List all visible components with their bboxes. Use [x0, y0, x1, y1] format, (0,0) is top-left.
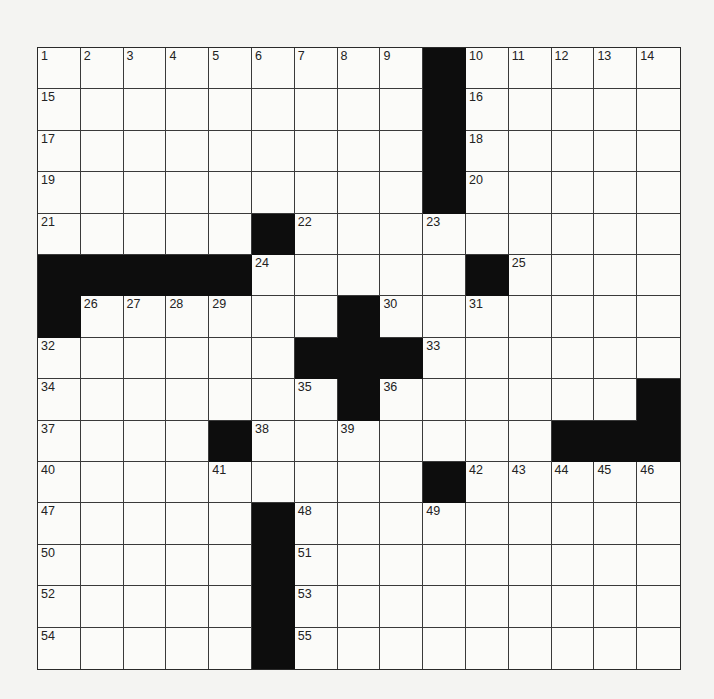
- grid-cell[interactable]: [166, 131, 209, 172]
- grid-cell[interactable]: [637, 586, 680, 627]
- grid-cell[interactable]: 35: [295, 379, 338, 420]
- grid-cell[interactable]: [466, 421, 509, 462]
- grid-cell[interactable]: [338, 628, 381, 669]
- grid-cell[interactable]: [81, 545, 124, 586]
- grid-cell[interactable]: [338, 545, 381, 586]
- grid-cell[interactable]: 21: [38, 214, 81, 255]
- grid-cell[interactable]: 13: [594, 48, 637, 89]
- grid-cell[interactable]: 17: [38, 131, 81, 172]
- grid-cell[interactable]: [380, 255, 423, 296]
- grid-cell[interactable]: [338, 89, 381, 130]
- grid-cell[interactable]: [637, 503, 680, 544]
- grid-cell[interactable]: [166, 214, 209, 255]
- grid-cell[interactable]: 34: [38, 379, 81, 420]
- grid-cell[interactable]: [209, 214, 252, 255]
- grid-cell[interactable]: [81, 172, 124, 213]
- grid-cell[interactable]: [81, 379, 124, 420]
- grid-cell[interactable]: [594, 172, 637, 213]
- grid-cell[interactable]: [509, 131, 552, 172]
- grid-cell[interactable]: 50: [38, 545, 81, 586]
- grid-cell[interactable]: [637, 296, 680, 337]
- grid-cell[interactable]: [81, 89, 124, 130]
- grid-cell[interactable]: [166, 586, 209, 627]
- grid-cell[interactable]: [594, 503, 637, 544]
- grid-cell[interactable]: [380, 214, 423, 255]
- grid-cell[interactable]: [509, 338, 552, 379]
- grid-cell[interactable]: [466, 503, 509, 544]
- grid-cell[interactable]: [466, 545, 509, 586]
- grid-cell[interactable]: [552, 586, 595, 627]
- grid-cell[interactable]: [509, 586, 552, 627]
- grid-cell[interactable]: 49: [423, 503, 466, 544]
- grid-cell[interactable]: 28: [166, 296, 209, 337]
- grid-cell[interactable]: [252, 172, 295, 213]
- grid-cell[interactable]: [124, 628, 167, 669]
- grid-cell[interactable]: [637, 255, 680, 296]
- grid-cell[interactable]: [423, 255, 466, 296]
- grid-cell[interactable]: [124, 421, 167, 462]
- grid-cell[interactable]: [295, 296, 338, 337]
- grid-cell[interactable]: 38: [252, 421, 295, 462]
- grid-cell[interactable]: [124, 545, 167, 586]
- grid-cell[interactable]: 55: [295, 628, 338, 669]
- grid-cell[interactable]: [637, 628, 680, 669]
- grid-cell[interactable]: [252, 462, 295, 503]
- grid-cell[interactable]: [552, 255, 595, 296]
- grid-cell[interactable]: [552, 296, 595, 337]
- grid-cell[interactable]: [637, 214, 680, 255]
- grid-cell[interactable]: [166, 628, 209, 669]
- grid-cell[interactable]: [166, 172, 209, 213]
- grid-cell[interactable]: [423, 296, 466, 337]
- grid-cell[interactable]: 27: [124, 296, 167, 337]
- grid-cell[interactable]: 15: [38, 89, 81, 130]
- grid-cell[interactable]: [466, 628, 509, 669]
- grid-cell[interactable]: 53: [295, 586, 338, 627]
- grid-cell[interactable]: [380, 89, 423, 130]
- grid-cell[interactable]: [380, 131, 423, 172]
- grid-cell[interactable]: [124, 172, 167, 213]
- grid-cell[interactable]: [637, 338, 680, 379]
- grid-cell[interactable]: [124, 462, 167, 503]
- grid-cell[interactable]: [338, 172, 381, 213]
- grid-cell[interactable]: [295, 89, 338, 130]
- grid-cell[interactable]: [594, 628, 637, 669]
- grid-cell[interactable]: [380, 586, 423, 627]
- grid-cell[interactable]: [466, 586, 509, 627]
- grid-cell[interactable]: [509, 296, 552, 337]
- grid-cell[interactable]: 30: [380, 296, 423, 337]
- grid-cell[interactable]: 31: [466, 296, 509, 337]
- grid-cell[interactable]: [166, 545, 209, 586]
- grid-cell[interactable]: [209, 628, 252, 669]
- grid-cell[interactable]: 46: [637, 462, 680, 503]
- grid-cell[interactable]: 5: [209, 48, 252, 89]
- grid-cell[interactable]: [166, 462, 209, 503]
- grid-cell[interactable]: 25: [509, 255, 552, 296]
- grid-cell[interactable]: [209, 172, 252, 213]
- grid-cell[interactable]: [594, 379, 637, 420]
- grid-cell[interactable]: [295, 255, 338, 296]
- grid-cell[interactable]: 41: [209, 462, 252, 503]
- grid-cell[interactable]: [209, 89, 252, 130]
- grid-cell[interactable]: [509, 214, 552, 255]
- grid-cell[interactable]: 29: [209, 296, 252, 337]
- grid-cell[interactable]: [252, 131, 295, 172]
- grid-cell[interactable]: [423, 379, 466, 420]
- grid-cell[interactable]: [252, 89, 295, 130]
- grid-cell[interactable]: [509, 379, 552, 420]
- grid-cell[interactable]: [380, 628, 423, 669]
- grid-cell[interactable]: 16: [466, 89, 509, 130]
- grid-cell[interactable]: 18: [466, 131, 509, 172]
- grid-cell[interactable]: [594, 131, 637, 172]
- grid-cell[interactable]: [166, 421, 209, 462]
- grid-cell[interactable]: [338, 503, 381, 544]
- grid-cell[interactable]: [295, 421, 338, 462]
- grid-cell[interactable]: 11: [509, 48, 552, 89]
- grid-cell[interactable]: [466, 338, 509, 379]
- grid-cell[interactable]: 20: [466, 172, 509, 213]
- grid-cell[interactable]: [466, 214, 509, 255]
- grid-cell[interactable]: [81, 462, 124, 503]
- grid-cell[interactable]: [338, 214, 381, 255]
- grid-cell[interactable]: 7: [295, 48, 338, 89]
- grid-cell[interactable]: [81, 214, 124, 255]
- grid-cell[interactable]: [124, 338, 167, 379]
